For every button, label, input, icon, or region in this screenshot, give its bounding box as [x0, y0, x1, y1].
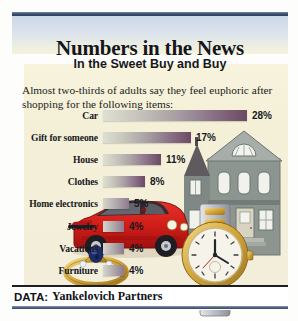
bar-value: 8% [150, 176, 164, 187]
bar-label: Home electronics [12, 198, 103, 209]
bar-track: 28% [103, 110, 288, 121]
bar-label: Furniture [12, 265, 103, 276]
bar-clothes [103, 176, 145, 187]
source-name: Yankelovich Partners [52, 289, 162, 304]
table-row: Gift for someone 17% [12, 126, 288, 148]
table-row: Furniture 4% [12, 259, 288, 281]
bottom-divider-rule [12, 306, 288, 309]
bar-home-electronics [103, 198, 129, 209]
news-graphic-panel: Numbers in the News In the Sweet Buy and… [0, 0, 298, 321]
bar-track: 4% [103, 265, 288, 276]
bar-track: 17% [103, 132, 288, 143]
bar-label: Vacations [12, 243, 103, 254]
chart-subtitle: In the Sweet Buy and Buy [12, 57, 288, 71]
table-row: Jewelry 4% [12, 215, 288, 237]
bar-track: 4% [103, 221, 288, 232]
bar-label: Clothes [12, 176, 103, 187]
bar-gift-for-someone [103, 132, 191, 143]
bar-value: 5% [134, 198, 148, 209]
bar-value: 4% [129, 243, 143, 254]
bar-house [103, 154, 161, 165]
bar-value: 11% [166, 154, 185, 165]
bar-vacations [103, 243, 124, 254]
bar-track: 8% [103, 176, 288, 187]
bar-value: 4% [129, 221, 143, 232]
bar-furniture [103, 265, 124, 276]
table-row: Home electronics 5% [12, 193, 288, 215]
table-row: Clothes 8% [12, 171, 288, 193]
bar-track: 11% [103, 154, 288, 165]
table-row: House 11% [12, 148, 288, 170]
bar-label: Gift for someone [12, 132, 103, 143]
table-row: Vacations 4% [12, 237, 288, 259]
source-attribution: DATA: Yankelovich Partners [14, 288, 162, 305]
bar-track: 4% [103, 243, 288, 254]
footer-divider-rule [12, 285, 288, 287]
table-row: Car 28% [12, 104, 288, 126]
bar-track: 5% [103, 198, 288, 209]
bar-value: 4% [129, 265, 143, 276]
bar-chart: Car 28% Gift for someone 17% House 11% C… [12, 104, 288, 284]
bar-car [103, 110, 247, 121]
bar-jewelry [103, 221, 124, 232]
data-label: DATA: [14, 291, 48, 303]
bar-value: 28% [252, 110, 272, 121]
bar-label: Car [12, 110, 103, 121]
bar-value: 17% [196, 132, 216, 143]
bar-label: Jewelry [12, 221, 103, 232]
bar-label: House [12, 154, 103, 165]
